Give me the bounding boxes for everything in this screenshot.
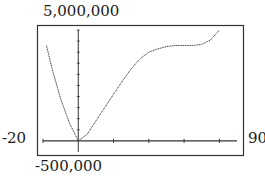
graph-frame xyxy=(38,26,244,156)
function-curve xyxy=(47,30,220,141)
graph-window xyxy=(0,0,265,180)
axes xyxy=(43,30,237,152)
